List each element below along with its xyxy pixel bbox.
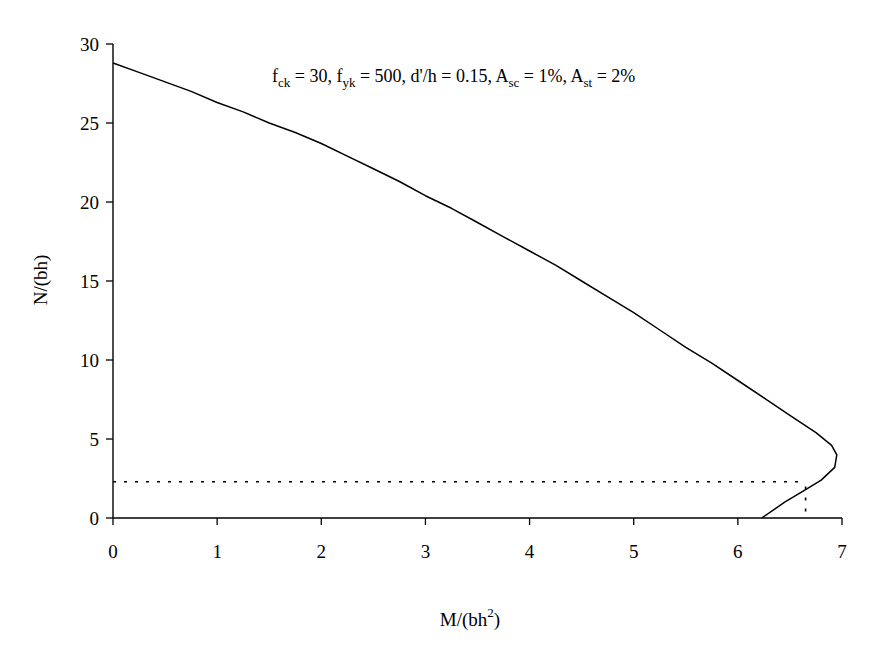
x-tick-label: 7 xyxy=(837,541,847,562)
x-axis-title: M/(bh2) xyxy=(440,605,500,631)
y-tick-label: 30 xyxy=(80,34,99,55)
y-tick-label: 5 xyxy=(90,429,100,450)
x-tick-label: 4 xyxy=(525,541,535,562)
axes: 05101520253001234567 xyxy=(80,34,847,562)
y-tick-label: 0 xyxy=(90,508,100,529)
y-axis-title: N/(bh) xyxy=(30,255,52,306)
y-tick-label: 15 xyxy=(80,271,99,292)
interaction-diagram-chart: 05101520253001234567 fck = 30, fyk = 500… xyxy=(0,0,878,659)
y-tick-label: 10 xyxy=(80,350,99,371)
x-tick-label: 6 xyxy=(733,541,743,562)
parameter-annotation: fck = 30, fyk = 500, d'/h = 0.15, Asc = … xyxy=(272,66,635,90)
x-tick-label: 5 xyxy=(629,541,639,562)
y-tick-label: 20 xyxy=(80,192,99,213)
y-tick-label: 25 xyxy=(80,113,99,134)
interaction-curve xyxy=(113,63,837,518)
x-tick-label: 1 xyxy=(212,541,222,562)
series-layer xyxy=(113,63,837,518)
x-tick-label: 3 xyxy=(421,541,431,562)
x-tick-label: 0 xyxy=(108,541,118,562)
x-tick-label: 2 xyxy=(317,541,327,562)
